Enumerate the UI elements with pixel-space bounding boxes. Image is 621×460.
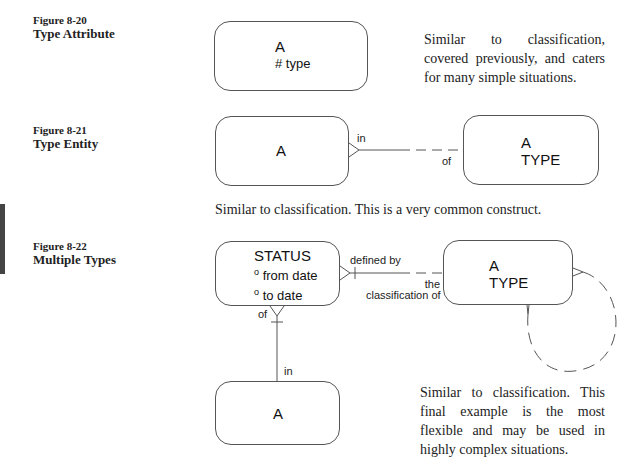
crows-foot-icon [340,266,350,280]
crows-foot-icon [270,306,284,316]
crows-foot-icon [573,268,583,276]
crows-foot-icon [527,305,529,314]
crows-foot-icon [349,143,359,157]
relationship-lines [0,0,621,460]
